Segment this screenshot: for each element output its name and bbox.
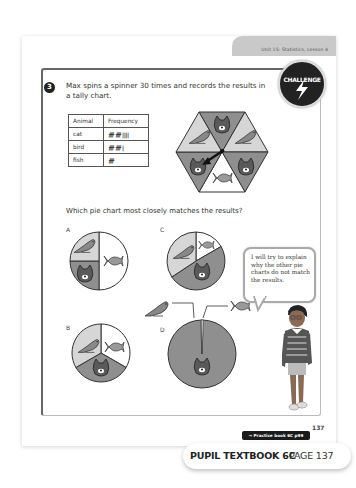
table-row: bird 卌 卌 | (69, 141, 149, 154)
footer-page-label: PAGE 137 (289, 450, 333, 461)
animal-cell: fish (69, 154, 104, 167)
table-header-row: Animal Frequency (69, 115, 149, 128)
footer-book-title: PUPIL TEXTBOOK 6C (190, 450, 296, 461)
pie-chart-b[interactable] (70, 322, 132, 384)
animal-cell: bird (69, 141, 104, 154)
practice-book-link[interactable]: → Practice book 6C p99 (242, 431, 310, 440)
challenge-badge: CHALLENGE (278, 60, 326, 108)
page-number: 137 (312, 424, 325, 431)
table-row: fish 卌 (69, 154, 149, 167)
pie-label-c: C (160, 226, 164, 233)
pie-label-d: D (160, 326, 165, 333)
question-text: Max spins a spinner 30 times and records… (66, 81, 266, 101)
header-frequency: Frequency (104, 115, 149, 128)
question-number: 3 (44, 82, 55, 93)
animal-cell: cat (69, 128, 104, 141)
tally-cell: 卌 卌 | (104, 141, 149, 154)
speech-bubble-tail (252, 296, 272, 312)
lightning-icon (292, 80, 312, 100)
hexagon-spinner (164, 100, 284, 200)
speech-bubble-text: I will try to explain why the other pie … (251, 254, 311, 284)
tally-cell: 卌 (104, 154, 149, 167)
pie-chart-c[interactable] (165, 230, 227, 292)
header-animal: Animal (69, 115, 104, 128)
table-row: cat 卌 卌 |||| (69, 128, 149, 141)
question-prompt: Which pie chart most closely matches the… (66, 207, 242, 215)
speech-bubble: I will try to explain why the other pie … (243, 247, 316, 303)
tally-chart: Animal Frequency cat 卌 卌 |||| bird 卌 卌 |… (68, 114, 149, 167)
pie-chart-d[interactable] (166, 318, 238, 390)
pie-chart-a[interactable] (68, 230, 130, 292)
unit-label: Unit 15: Statistics, Lesson 4 (261, 47, 328, 52)
character-illustration (282, 305, 312, 415)
tally-cell: 卌 卌 |||| (104, 128, 149, 141)
header-tab (232, 36, 336, 56)
